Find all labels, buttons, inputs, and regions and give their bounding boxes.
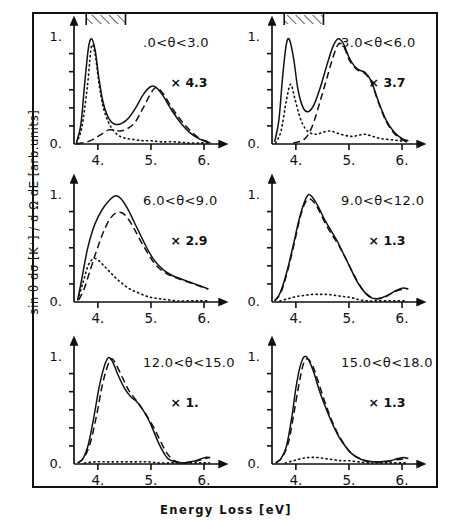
x-tick-label: 5.	[145, 152, 158, 168]
panel-p3: 0.1.4.5.6.6.0<θ<9.0× 2.9	[50, 182, 220, 326]
x-tick-label: 4.	[91, 152, 104, 168]
x-tick-label: 4.	[91, 310, 104, 326]
y-axis-label: sin θ dσ [K⁺] / d Ω dE [arb.units]	[27, 82, 41, 342]
x-tick-label: 5.	[343, 472, 356, 488]
y-tick-label-0: 0.	[248, 294, 260, 309]
panel-p2: 0.1.4.5.6.3.0<θ<6.0× 3.7	[248, 14, 418, 168]
y-tick-label-0: 0.	[248, 136, 260, 151]
curve-solid	[77, 39, 211, 143]
x-tick-label: 6.	[198, 310, 211, 326]
x-tick-label: 5.	[343, 152, 356, 168]
eels-spectra-figure: 0.1.4.5.6..0<θ<3.0× 4.30.1.4.5.6.3.0<θ<6…	[0, 0, 452, 529]
scale-factor-label: × 4.3	[171, 75, 208, 90]
x-tick-label: 4.	[289, 152, 302, 168]
y-tick-label-1: 1.	[50, 29, 62, 44]
curve-solid	[275, 194, 409, 300]
y-tick-label-1: 1.	[248, 29, 260, 44]
figure-root: 0.1.4.5.6..0<θ<3.0× 4.30.1.4.5.6.3.0<θ<6…	[0, 0, 452, 529]
theta-range-label: 6.0<θ<9.0	[143, 193, 218, 208]
y-axis-label-text: sin θ dσ [K⁺] / d Ω dE [arb.units]	[27, 110, 41, 315]
y-tick-label-1: 1.	[50, 349, 62, 364]
scale-factor-label: × 3.7	[369, 75, 406, 90]
hatched-band	[86, 15, 125, 24]
curve-solid	[276, 356, 409, 463]
y-tick-label-1: 1.	[248, 349, 260, 364]
scale-factor-label: × 2.9	[171, 233, 208, 248]
x-axis-label: Energy Loss [eV]	[0, 503, 452, 517]
x-axis-label-text: Energy Loss [eV]	[160, 503, 292, 517]
theta-range-label: 3.0<θ<6.0	[341, 35, 416, 50]
theta-range-label: 12.0<θ<15.0	[143, 355, 235, 370]
panel-p1: 0.1.4.5.6..0<θ<3.0× 4.3	[50, 14, 220, 168]
y-tick-label-0: 0.	[248, 456, 260, 471]
y-tick-label-0: 0.	[50, 136, 62, 151]
curve-dashed	[79, 212, 209, 300]
x-tick-label: 4.	[289, 310, 302, 326]
curve-dashed	[276, 359, 407, 463]
y-tick-label-0: 0.	[50, 294, 62, 309]
x-tick-label: 5.	[145, 472, 158, 488]
panel-p6: 0.1.4.5.6.15.0<θ<18.0× 1.3	[248, 344, 433, 488]
x-tick-label: 6.	[198, 472, 211, 488]
scale-factor-label: × 1.	[171, 395, 199, 410]
x-tick-label: 6.	[396, 472, 409, 488]
x-tick-label: 6.	[396, 310, 409, 326]
y-tick-label-1: 1.	[248, 187, 260, 202]
panel-p4: 0.1.4.5.6.9.0<θ<12.0× 1.3	[248, 182, 425, 326]
hatched-band	[284, 15, 323, 24]
y-tick-label-1: 1.	[50, 187, 62, 202]
scale-factor-label: × 1.3	[369, 233, 406, 248]
x-tick-label: 5.	[145, 310, 158, 326]
x-tick-label: 6.	[396, 152, 409, 168]
panel-grid: 0.1.4.5.6..0<θ<3.0× 4.30.1.4.5.6.3.0<θ<6…	[50, 14, 433, 488]
theta-range-label: .0<θ<3.0	[143, 35, 209, 50]
curve-dashed	[275, 199, 407, 301]
panel-p5: 0.1.4.5.6.12.0<θ<15.0× 1.	[50, 344, 235, 488]
curve-dotted	[78, 258, 209, 301]
y-tick-label-0: 0.	[50, 456, 62, 471]
curve-dotted	[276, 84, 408, 143]
scale-factor-label: × 1.3	[369, 395, 406, 410]
x-tick-label: 5.	[343, 310, 356, 326]
theta-range-label: 9.0<θ<12.0	[341, 193, 424, 208]
x-tick-label: 6.	[198, 152, 211, 168]
theta-range-label: 15.0<θ<18.0	[341, 355, 433, 370]
x-tick-label: 4.	[91, 472, 104, 488]
x-tick-label: 4.	[289, 472, 302, 488]
